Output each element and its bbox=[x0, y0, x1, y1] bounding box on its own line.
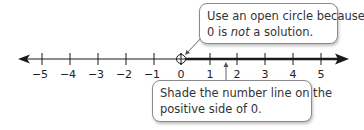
callout-text-line: Use an open circle because bbox=[207, 8, 330, 24]
callout-text: a solution. bbox=[250, 25, 314, 39]
callout-text: 0 is bbox=[207, 25, 231, 39]
bottom-pointer-arrowhead-icon bbox=[224, 62, 229, 67]
callout-text-line: positive side of 0. bbox=[160, 101, 304, 117]
open-circle-callout: Use an open circle because 0 is not a so… bbox=[199, 3, 338, 44]
shade-line-callout: Shade the number line on the positive si… bbox=[152, 80, 312, 122]
tick-label: 5 bbox=[318, 68, 325, 81]
tick-label: −4 bbox=[60, 68, 76, 81]
emphasis-text: not bbox=[231, 25, 250, 39]
tick-label: −2 bbox=[116, 68, 132, 81]
callout-text-line: 0 is not a solution. bbox=[207, 24, 330, 40]
callout-text-line: Shade the number line on the bbox=[160, 85, 304, 101]
tick-label: −3 bbox=[88, 68, 104, 81]
tick-label: −5 bbox=[32, 68, 48, 81]
tick-label: −1 bbox=[144, 68, 160, 81]
